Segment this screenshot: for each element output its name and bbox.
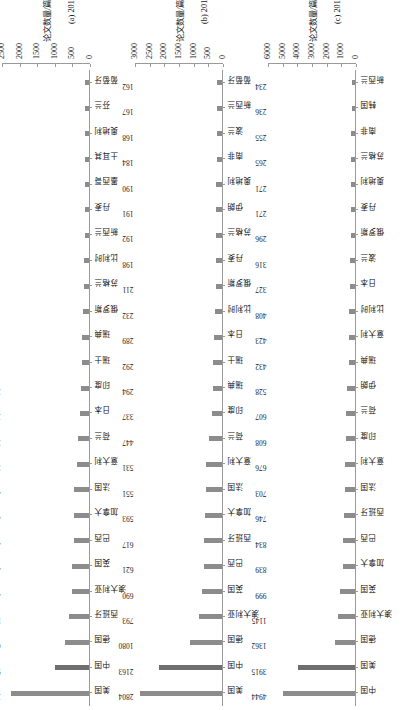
category-label: 丹麦 <box>94 202 110 210</box>
bar-item: 690 <box>135 579 222 604</box>
bar <box>298 665 355 670</box>
value-axis-tick-label: 2000 <box>16 43 24 59</box>
bar <box>11 691 89 696</box>
bar <box>190 640 222 645</box>
bar-item: 607 <box>268 401 355 426</box>
bar-item: 2804 <box>135 681 222 706</box>
category-label: 法国 <box>94 482 110 490</box>
bar <box>199 614 222 619</box>
category-label: 新西兰 <box>360 75 384 83</box>
bar-item: 192 <box>135 223 222 248</box>
bar <box>344 513 355 518</box>
bar-item: 100 <box>2 70 89 95</box>
bar-value-label: 211 <box>122 286 133 293</box>
bar-value-label: 793 <box>122 617 133 624</box>
value-axis-tick <box>72 64 73 67</box>
bar-item: 162 <box>135 70 222 95</box>
bar-value-label: 198 <box>122 261 133 268</box>
category-label: 土耳其 <box>94 151 118 159</box>
category-label: 韩国 <box>360 101 376 109</box>
bar-item: 109 <box>2 146 89 171</box>
bar-value-label: 2163 <box>118 668 133 675</box>
category-label: 意大利 <box>94 457 118 465</box>
value-axis-tick <box>37 64 38 67</box>
bar-item: 617 <box>135 528 222 553</box>
bar-value-label: 2804 <box>118 693 133 700</box>
bar-value-label: 1145 <box>251 617 266 624</box>
category-label: 巴西 <box>360 533 376 541</box>
bar-item: 423 <box>268 324 355 349</box>
bar-value-label: 289 <box>122 337 133 344</box>
value-axis-tick-label: 3000 <box>308 43 316 59</box>
category-label: 加拿大 <box>227 508 251 516</box>
bar <box>82 360 89 365</box>
bar-value-label: 292 <box>122 363 133 370</box>
bar-item: 563 <box>2 604 89 629</box>
bar-item: 551 <box>135 477 222 502</box>
category-label: 德国 <box>94 635 110 643</box>
bar-value-label: 296 <box>255 235 266 242</box>
bar-item: 608 <box>268 426 355 451</box>
bar-item: 337 <box>135 401 222 426</box>
value-axis-tick-label: 1000 <box>190 43 198 59</box>
bar-item: 128 <box>2 223 89 248</box>
bar <box>338 614 355 619</box>
bar <box>204 538 222 543</box>
category-label: 葡萄牙 <box>227 75 251 83</box>
category-label: 中国 <box>227 660 243 668</box>
category-label: 德国 <box>360 635 376 643</box>
axis-title: 论文数量/篇 <box>306 0 318 42</box>
bar-value-label: 432 <box>255 363 266 370</box>
bar-value-label: 408 <box>255 312 266 319</box>
bar <box>345 487 355 492</box>
plot-area-a: 2219953695563493487426424416337321266232… <box>2 70 90 706</box>
category-label: 瑞典 <box>94 330 110 338</box>
bar-value-label: 999 <box>255 592 266 599</box>
bar-value-label: 423 <box>255 337 266 344</box>
bar-value-label: 236 <box>255 108 266 115</box>
bar-item: 416 <box>2 477 89 502</box>
bar-item: 337 <box>2 452 89 477</box>
category-label: 英国 <box>94 559 110 567</box>
category-label: 中国 <box>94 660 110 668</box>
bar-value-label: 337 <box>122 413 133 420</box>
category-label: 新西兰 <box>227 101 251 109</box>
bar-value-label: 746 <box>255 515 266 522</box>
bar-value-label: 316 <box>255 261 266 268</box>
category-label: 比利时 <box>94 253 118 261</box>
bar <box>159 665 222 670</box>
bar-value-label: 703 <box>255 490 266 497</box>
bar-item: 176 <box>2 299 89 324</box>
bar-value-label: 3915 <box>251 668 266 675</box>
bar-item: 3915 <box>268 655 355 680</box>
bar <box>74 513 89 518</box>
category-label: 奥地利 <box>360 177 384 185</box>
bar-item: 155 <box>2 248 89 273</box>
bar-value-label: 265 <box>255 159 266 166</box>
bar <box>345 462 355 467</box>
category-label: 伊朗 <box>227 202 243 210</box>
category-label: 丹麦 <box>360 202 376 210</box>
bar-item: 2163 <box>135 655 222 680</box>
category-label: 美国 <box>360 660 376 668</box>
value-axis-tick-label: 2500 <box>0 43 6 59</box>
value-axis-tick <box>341 64 342 67</box>
category-label: 奥地利 <box>94 126 118 134</box>
bar-value-label: 447 <box>122 439 133 446</box>
bar-value-label: 192 <box>122 235 133 242</box>
bar-item: 321 <box>2 426 89 451</box>
bar-value-label: 255 <box>255 134 266 141</box>
category-label: 英国 <box>227 584 243 592</box>
bar <box>206 487 222 492</box>
bar-item: 289 <box>135 324 222 349</box>
value-axis-tick <box>90 64 91 67</box>
value-axis-tick-label: 4000 <box>293 43 301 59</box>
bar <box>205 513 222 518</box>
bar <box>206 462 222 467</box>
category-label: 葡萄牙 <box>94 75 118 83</box>
category-label: 巴西 <box>94 533 110 541</box>
bar-item: 271 <box>268 197 355 222</box>
bar-item: 447 <box>135 426 222 451</box>
category-label: 南非 <box>360 126 376 134</box>
bar-value-label: 607 <box>255 413 266 420</box>
